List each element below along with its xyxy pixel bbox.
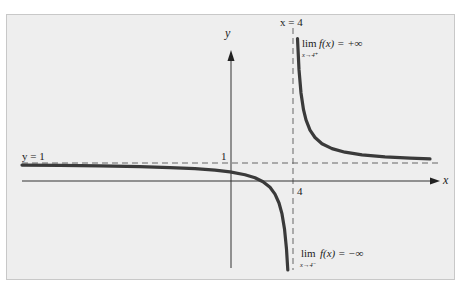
limit-plus-lim: lim [302, 37, 317, 49]
limit-minus-lim: lim [301, 247, 316, 259]
limit-plus-expression: f(x) = +∞ [319, 37, 363, 50]
x-axis-label: x [442, 173, 449, 187]
limit-plus-subscript: x→4⁺ [301, 51, 318, 58]
limit-minus-expression: f(x) = −∞ [320, 247, 364, 260]
y-tick-label: 1 [221, 150, 227, 162]
x-tick-label: 4 [297, 185, 303, 197]
limit-minus-subscript: x→4⁻ [299, 261, 316, 268]
horizontal-asymptote-label: y = 1 [22, 150, 45, 162]
chart-canvas: y x x = 4 y = 1 4 1 lim x→4⁺ f(x) = +∞ l… [0, 0, 464, 294]
x-axis-arrow-icon [430, 178, 440, 185]
y-axis-label: y [224, 26, 231, 40]
vertical-asymptote-label: x = 4 [280, 16, 303, 28]
y-axis-arrow-icon [228, 50, 235, 61]
